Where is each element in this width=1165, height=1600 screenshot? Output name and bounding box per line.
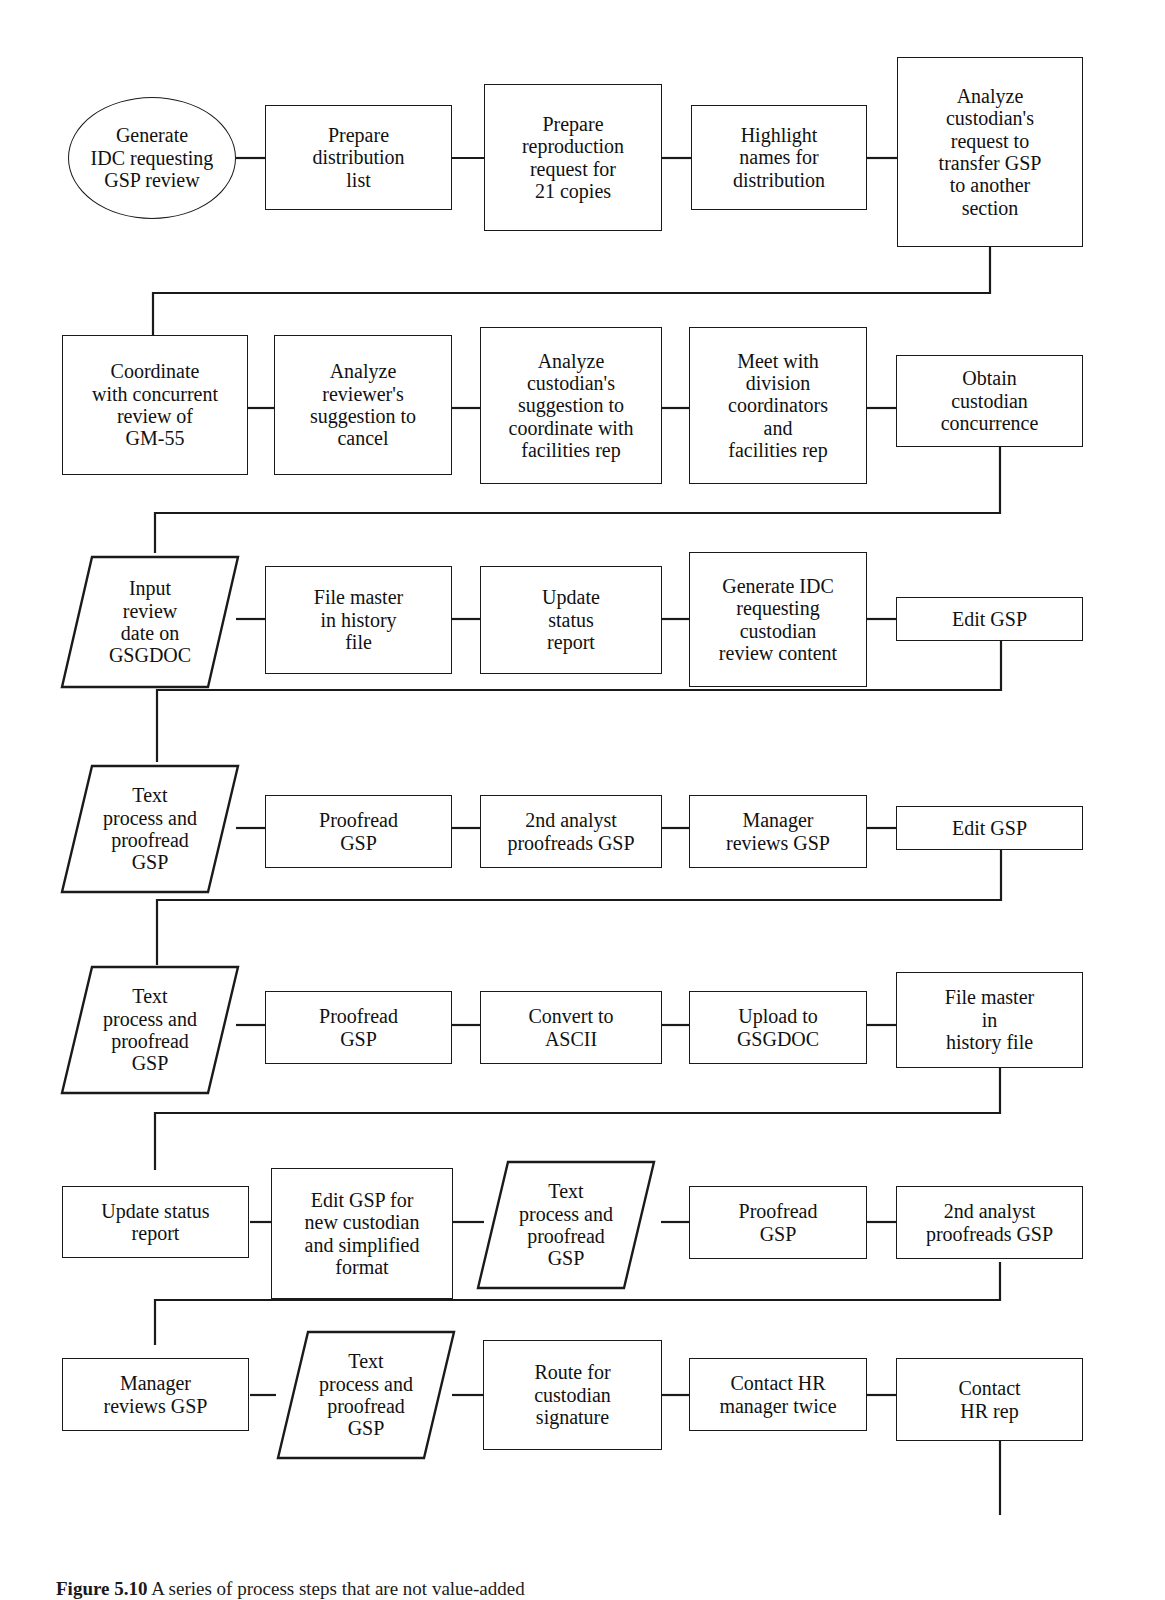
node-label: File master in history file	[939, 986, 1040, 1053]
node-generate-idc-requesting-gsp-review[interactable]: Generate IDC requesting GSP review	[68, 97, 236, 219]
node-label: Text process and proofread GSP	[313, 1350, 419, 1440]
node-label: Route for custodian signature	[528, 1361, 617, 1428]
node-label: Text process and proofread GSP	[97, 784, 203, 874]
node-label: Meet with division coordinators and faci…	[722, 350, 834, 462]
node-label: Proofread GSP	[733, 1200, 824, 1245]
node-label: Manager reviews GSP	[720, 809, 836, 854]
figure-caption-label: Figure 5.10	[56, 1578, 147, 1599]
node-label: Highlight names for distribution	[727, 124, 831, 191]
node-label: Convert to ASCII	[523, 1005, 620, 1050]
node-proofread-gsp-c[interactable]: Proofread GSP	[689, 1186, 867, 1259]
node-convert-to-ascii[interactable]: Convert to ASCII	[480, 991, 662, 1064]
node-proofread-gsp-b[interactable]: Proofread GSP	[265, 991, 452, 1064]
node-label: Generate IDC requesting GSP review	[85, 124, 220, 191]
node-label: Edit GSP	[946, 817, 1033, 839]
node-generate-idc-requesting-custodian-review[interactable]: Generate IDC requesting custodian review…	[689, 552, 867, 687]
node-label: Edit GSP for new custodian and simplifie…	[299, 1189, 426, 1279]
node-analyze-reviewer-suggestion-cancel[interactable]: Analyze reviewer's suggestion to cancel	[274, 335, 452, 475]
node-label: 2nd analyst proofreads GSP	[501, 809, 640, 854]
node-label: Manager reviews GSP	[98, 1372, 214, 1417]
node-edit-gsp-a[interactable]: Edit GSP	[896, 597, 1083, 641]
node-update-status-report-a[interactable]: Update status report	[480, 566, 662, 674]
node-label: Prepare reproduction request for 21 copi…	[516, 113, 630, 203]
node-label: Prepare distribution list	[306, 124, 410, 191]
node-route-for-custodian-signature[interactable]: Route for custodian signature	[483, 1340, 662, 1450]
node-2nd-analyst-proofreads-gsp-a[interactable]: 2nd analyst proofreads GSP	[480, 795, 662, 868]
node-manager-reviews-gsp-a[interactable]: Manager reviews GSP	[689, 795, 867, 868]
node-label: Text process and proofread GSP	[97, 985, 203, 1075]
node-file-master-in-history-file-b[interactable]: File master in history file	[896, 972, 1083, 1068]
node-file-master-in-history-file-a[interactable]: File master in history file	[265, 566, 452, 674]
node-label: Analyze custodian's suggestion to coordi…	[503, 350, 640, 462]
node-label: Proofread GSP	[313, 1005, 404, 1050]
node-update-status-report-b[interactable]: Update status report	[62, 1186, 249, 1258]
node-contact-hr-manager-twice[interactable]: Contact HR manager twice	[689, 1358, 867, 1431]
node-prepare-distribution-list[interactable]: Prepare distribution list	[265, 105, 452, 210]
edge-row1-row2	[153, 246, 990, 336]
node-label: 2nd analyst proofreads GSP	[920, 1200, 1059, 1245]
node-analyze-custodian-suggestion-coordinate[interactable]: Analyze custodian's suggestion to coordi…	[480, 327, 662, 484]
node-meet-with-division-coordinators[interactable]: Meet with division coordinators and faci…	[689, 327, 867, 484]
figure-canvas: Generate IDC requesting GSP review Prepa…	[0, 0, 1165, 1600]
node-label: File master in history file	[308, 586, 409, 653]
node-manager-reviews-gsp-b[interactable]: Manager reviews GSP	[62, 1358, 249, 1431]
node-coordinate-concurrent-review-gm55[interactable]: Coordinate with concurrent review of GM-…	[62, 335, 248, 475]
node-contact-hr-rep[interactable]: Contact HR rep	[896, 1358, 1083, 1441]
node-label: Upload to GSGDOC	[731, 1005, 825, 1050]
node-label: Generate IDC requesting custodian review…	[713, 575, 843, 665]
node-label: Analyze custodian's request to transfer …	[933, 85, 1048, 219]
node-label: Edit GSP	[946, 608, 1033, 630]
node-label: Input review date on GSGDOC	[103, 577, 197, 667]
node-upload-to-gsgdoc[interactable]: Upload to GSGDOC	[689, 991, 867, 1064]
node-text-process-proofread-gsp-b[interactable]: Text process and proofread GSP	[60, 965, 240, 1095]
node-label: Coordinate with concurrent review of GM-…	[86, 360, 224, 450]
node-label: Update status report	[95, 1200, 215, 1245]
node-input-review-date-gsgdoc[interactable]: Input review date on GSGDOC	[60, 555, 240, 689]
node-label: Contact HR manager twice	[713, 1372, 842, 1417]
edge-row5-row6	[155, 1068, 1000, 1170]
node-edit-gsp-b[interactable]: Edit GSP	[896, 806, 1083, 850]
node-analyze-custodian-request-transfer[interactable]: Analyze custodian's request to transfer …	[897, 57, 1083, 247]
node-edit-gsp-new-custodian-simplified[interactable]: Edit GSP for new custodian and simplifie…	[271, 1168, 453, 1299]
node-highlight-names-for-distribution[interactable]: Highlight names for distribution	[691, 105, 867, 210]
node-prepare-reproduction-request[interactable]: Prepare reproduction request for 21 copi…	[484, 84, 662, 231]
node-text-process-proofread-gsp-d[interactable]: Text process and proofread GSP	[276, 1330, 456, 1460]
node-label: Update status report	[536, 586, 606, 653]
node-label: Obtain custodian concurrence	[935, 367, 1045, 434]
node-text-process-proofread-gsp-c[interactable]: Text process and proofread GSP	[476, 1160, 656, 1290]
node-obtain-custodian-concurrence[interactable]: Obtain custodian concurrence	[896, 355, 1083, 447]
node-label: Proofread GSP	[313, 809, 404, 854]
node-label: Analyze reviewer's suggestion to cancel	[304, 360, 422, 450]
node-label: Contact HR rep	[952, 1377, 1026, 1422]
figure-caption-text: A series of process steps that are not v…	[151, 1578, 525, 1599]
figure-caption: Figure 5.10 A series of process steps th…	[56, 1578, 525, 1600]
node-2nd-analyst-proofreads-gsp-b[interactable]: 2nd analyst proofreads GSP	[896, 1186, 1083, 1259]
node-label: Text process and proofread GSP	[513, 1180, 619, 1270]
node-proofread-gsp-a[interactable]: Proofread GSP	[265, 795, 452, 868]
node-text-process-proofread-gsp-a[interactable]: Text process and proofread GSP	[60, 764, 240, 894]
